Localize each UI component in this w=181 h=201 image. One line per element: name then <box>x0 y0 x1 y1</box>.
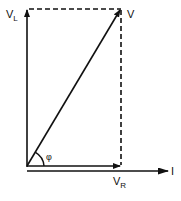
v-label: V <box>127 8 135 20</box>
phasor-diagram: VL V VR I φ <box>0 0 181 201</box>
vl-label: VL <box>6 8 18 23</box>
v-resultant-vector <box>27 10 120 166</box>
phi-angle-label: φ <box>46 152 52 162</box>
angle-arc <box>36 152 45 166</box>
vr-label: VR <box>113 175 126 190</box>
current-label: I <box>171 165 174 177</box>
